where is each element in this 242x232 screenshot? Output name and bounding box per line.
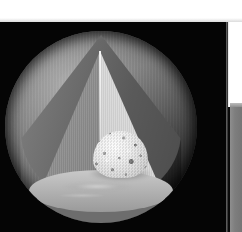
right-edge-panel[interactable] <box>230 107 242 232</box>
page-root: ••• • <box>0 0 242 232</box>
clipped-caption-text: ••• • <box>0 0 242 4</box>
core-noise-texture <box>93 131 148 178</box>
specular-glint-secondary <box>58 193 106 198</box>
figure-sphere-cutaway[interactable] <box>0 22 228 232</box>
specular-glint-primary <box>62 182 132 191</box>
side-white-gap <box>229 22 242 107</box>
inner-core <box>93 131 148 178</box>
